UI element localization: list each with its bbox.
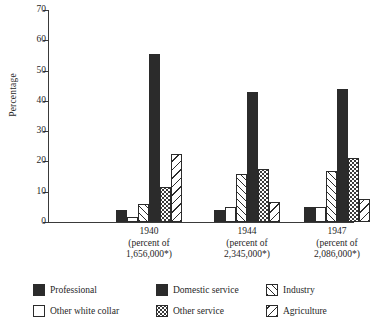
swatch-domestic-service-icon: [156, 284, 168, 296]
y-axis-tick-label: 0: [20, 217, 46, 226]
y-axis-tick-label: 10: [20, 187, 46, 196]
bar: [116, 210, 127, 222]
bar: [149, 54, 160, 222]
y-axis-title: Percentage: [8, 59, 18, 131]
bar: [258, 169, 269, 222]
y-axis-tick-label: 60: [20, 35, 46, 44]
bar: [160, 187, 171, 222]
bar: [348, 158, 359, 222]
legend-item-label: Professional: [50, 285, 97, 295]
bar: [214, 210, 225, 222]
legend-item[interactable]: Other white collar: [33, 305, 156, 317]
x-axis-category-year: 1947: [277, 226, 374, 238]
swatch-other-service-icon: [156, 305, 168, 317]
plot-area: 010203040506070: [48, 10, 354, 222]
x-axis-category-label: 1947(percent of2,086,000*): [277, 226, 374, 261]
swatch-industry-icon: [266, 284, 278, 296]
bar: [247, 92, 258, 222]
legend-item-label: Domestic service: [173, 285, 239, 295]
x-axis-category-sublabel: 2,086,000*): [277, 249, 374, 261]
legend-item-label: Other service: [173, 306, 224, 316]
x-axis-category-sublabel: (percent of: [277, 238, 374, 250]
bar: [225, 207, 236, 222]
swatch-professional-icon: [33, 284, 45, 296]
y-axis-tick-label: 70: [20, 5, 46, 14]
legend-item-label: Other white collar: [50, 306, 119, 316]
bar: [138, 204, 149, 222]
bar: [326, 171, 337, 222]
legend-item[interactable]: Domestic service: [156, 284, 266, 296]
swatch-other-white-collar-icon: [33, 305, 45, 317]
bar: [359, 199, 370, 222]
x-axis-line: [48, 222, 354, 223]
y-axis-line: [48, 10, 49, 223]
chart-legend: ProfessionalDomestic serviceIndustryOthe…: [33, 279, 355, 321]
y-axis-tick-label: 40: [20, 96, 46, 105]
legend-item-label: Industry: [283, 285, 315, 295]
bar: [315, 207, 326, 222]
legend-item[interactable]: Professional: [33, 284, 156, 296]
y-axis-tick-label: 50: [20, 66, 46, 75]
y-axis-tick-label: 30: [20, 126, 46, 135]
bar: [337, 89, 348, 222]
legend-item-label: Agriculture: [283, 306, 327, 316]
bar: [236, 174, 247, 222]
bar: [269, 202, 280, 222]
legend-item[interactable]: Agriculture: [266, 305, 355, 317]
legend-item[interactable]: Other service: [156, 305, 266, 317]
y-axis-tick-label: 20: [20, 156, 46, 165]
bar: [171, 154, 182, 222]
swatch-agriculture-icon: [266, 305, 278, 317]
legend-item[interactable]: Industry: [266, 284, 355, 296]
bar: [304, 207, 315, 222]
bar: [127, 217, 138, 222]
